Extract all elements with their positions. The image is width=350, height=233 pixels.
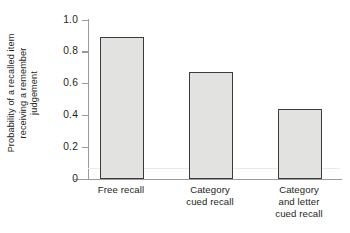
y-tick-mark-0.8 [82, 51, 88, 52]
y-tick-mark-1.0 [82, 20, 88, 21]
y-axis-title-line-3: judgement [29, 33, 41, 152]
bar-category-cued-recall [189, 72, 233, 179]
y-tick-label-0.8: 0.8 [63, 46, 78, 56]
bar-category-and-letter-cued-recall [278, 109, 322, 179]
x-category-label-line: cued recall [167, 196, 253, 208]
x-category-label-line: Category [256, 184, 342, 196]
x-category-label-line: and letter [256, 196, 342, 208]
y-axis-title-text: Probability of a recalled item receiving… [6, 33, 41, 152]
y-axis-title-line-2: receiving a remember [17, 33, 29, 152]
bar-chart: Probability of a recalled item receiving… [0, 0, 350, 233]
x-category-label-category-and-letter-cued-recall: Category and letter cued recall [256, 184, 342, 219]
x-category-label-line: Free recall [78, 184, 164, 196]
y-tick-mark-0.4 [82, 115, 88, 116]
x-category-label-category-cued-recall: Category cued recall [167, 184, 253, 208]
y-tick-mark-0.6 [82, 83, 88, 84]
x-category-label-line: Category [167, 184, 253, 196]
y-axis-title-line-1: Probability of a recalled item [6, 33, 18, 152]
x-category-label-free-recall: Free recall [78, 184, 164, 196]
bar-free-recall [100, 37, 144, 179]
y-tick-label-0.2: 0.2 [63, 142, 78, 152]
y-tick-label-1.0: 1.0 [63, 15, 78, 25]
y-tick-mark-0 [82, 179, 88, 180]
y-axis-line [88, 19, 89, 180]
y-tick-label-0.6: 0.6 [63, 78, 78, 88]
x-category-label-line: cued recall [256, 208, 342, 220]
y-tick-mark-0.2 [82, 147, 88, 148]
y-tick-label-0: 0 [72, 174, 78, 184]
y-tick-label-0.4: 0.4 [63, 110, 78, 120]
y-axis-title: Probability of a recalled item receiving… [0, 0, 46, 185]
